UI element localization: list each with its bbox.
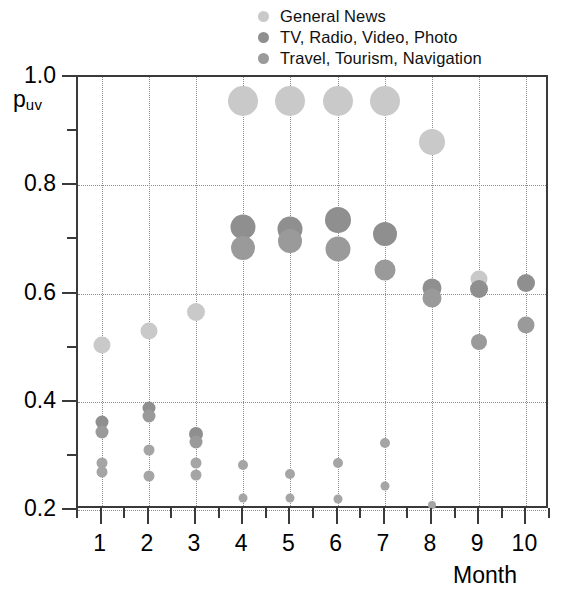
- gridline-vertical: [290, 77, 291, 506]
- data-point: [325, 237, 350, 262]
- data-point: [140, 322, 157, 339]
- data-point: [370, 86, 400, 116]
- x-axis-tick-major: [147, 508, 149, 524]
- x-axis-tick-minor: [359, 508, 361, 518]
- data-point: [518, 317, 535, 334]
- x-axis-tick-minor: [265, 508, 267, 518]
- legend-item-travel-tourism-navigation: Travel, Tourism, Navigation: [258, 48, 558, 69]
- y-axis-tick-major: [62, 183, 76, 185]
- data-point: [191, 470, 202, 481]
- data-point: [286, 494, 295, 503]
- data-point: [419, 129, 445, 155]
- x-axis-tick-major: [241, 508, 243, 524]
- data-point: [190, 436, 203, 449]
- y-axis-tick-label: 0.2: [0, 495, 56, 522]
- legend-label-general-news: General News: [280, 7, 386, 26]
- data-point: [380, 481, 389, 490]
- data-point: [517, 274, 535, 292]
- data-point: [285, 469, 295, 479]
- data-point: [95, 425, 108, 438]
- x-axis-tick-major: [430, 508, 432, 524]
- x-axis-tick-minor: [501, 508, 503, 518]
- data-point: [470, 280, 488, 298]
- data-point: [275, 86, 305, 116]
- y-axis-tick-minor: [67, 129, 76, 131]
- data-point: [142, 409, 155, 422]
- legend-item-general-news: General News: [258, 6, 558, 27]
- y-axis-tick-major: [62, 292, 76, 294]
- data-point: [228, 86, 258, 116]
- y-axis-tick-major: [62, 75, 76, 77]
- data-point: [333, 495, 342, 504]
- x-axis-tick-minor: [123, 508, 125, 518]
- x-axis-tick-major: [288, 508, 290, 524]
- x-axis-tick-major: [383, 508, 385, 524]
- data-point: [93, 336, 110, 353]
- data-point: [380, 438, 390, 448]
- x-axis-tick-minor: [218, 508, 220, 518]
- data-point: [191, 457, 202, 468]
- x-axis-tick-minor: [312, 508, 314, 518]
- x-axis-tick-major: [336, 508, 338, 524]
- x-axis-title: Month: [453, 562, 517, 589]
- y-axis-tick-label: 1.0: [0, 62, 56, 89]
- data-point: [471, 334, 487, 350]
- scatter-chart-figure: General News TV, Radio, Video, Photo Tra…: [0, 0, 568, 591]
- legend-label-travel-tourism-navigation: Travel, Tourism, Navigation: [280, 49, 482, 68]
- data-point: [96, 466, 107, 477]
- gridline-vertical: [243, 77, 244, 506]
- x-axis-tick-major: [194, 508, 196, 524]
- data-point: [323, 86, 353, 116]
- x-axis-tick-minor: [76, 508, 78, 518]
- data-point: [143, 444, 154, 455]
- x-axis-tick-major: [524, 508, 526, 524]
- y-axis-title-main: p: [13, 86, 26, 112]
- legend-swatch-general-news: [258, 11, 269, 22]
- data-point: [423, 288, 442, 307]
- y-axis-title-subscript: uv: [26, 96, 43, 113]
- legend-item-tv-radio-video-photo: TV, Radio, Video, Photo: [258, 27, 558, 48]
- data-point: [333, 458, 343, 468]
- legend-swatch-travel-tourism-navigation: [258, 53, 269, 64]
- data-point: [373, 222, 397, 246]
- x-axis-tick-minor: [454, 508, 456, 518]
- legend-swatch-tv-radio-video-photo: [258, 32, 269, 43]
- legend-label-tv-radio-video-photo: TV, Radio, Video, Photo: [280, 28, 458, 47]
- y-axis-tick-minor: [67, 237, 76, 239]
- x-axis-tick-minor: [548, 508, 550, 518]
- x-axis-tick-major: [100, 508, 102, 524]
- data-point: [187, 303, 205, 321]
- gridline-vertical: [338, 77, 339, 506]
- data-point: [231, 236, 255, 260]
- data-point: [143, 471, 154, 482]
- x-axis-tick-major: [477, 508, 479, 524]
- x-axis-tick-minor: [170, 508, 172, 518]
- data-point: [238, 460, 248, 470]
- y-axis-tick-label: 0.6: [0, 278, 56, 305]
- gridline-vertical: [149, 77, 150, 506]
- x-axis-tick-label: 10: [494, 530, 554, 557]
- y-axis-tick-label: 0.4: [0, 386, 56, 413]
- y-axis-tick-major: [62, 508, 76, 510]
- y-axis-tick-minor: [67, 454, 76, 456]
- data-point: [374, 259, 395, 280]
- data-point: [239, 493, 248, 502]
- y-axis-tick-minor: [67, 346, 76, 348]
- x-axis-tick-minor: [406, 508, 408, 518]
- y-axis-title: puv: [13, 86, 42, 113]
- chart-legend: General News TV, Radio, Video, Photo Tra…: [258, 6, 558, 69]
- y-axis-tick-major: [62, 400, 76, 402]
- plot-area: [76, 75, 548, 508]
- gridline-vertical: [102, 77, 103, 506]
- data-point: [325, 207, 351, 233]
- y-axis-tick-label: 0.8: [0, 170, 56, 197]
- data-point: [278, 229, 302, 253]
